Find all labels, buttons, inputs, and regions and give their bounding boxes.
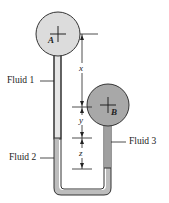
right-leg-fluid3 [105, 124, 111, 168]
vessel-a-label: A [48, 35, 54, 45]
dim-z-label: z [79, 148, 83, 158]
arrow-z-top [80, 139, 84, 144]
dim-y-label: y [79, 115, 83, 125]
arrow-y-top [80, 108, 84, 113]
arrow-z-bottom [80, 163, 84, 168]
fluid1-label: Fluid 1 [7, 75, 34, 85]
fluid2-label: Fluid 2 [9, 152, 36, 162]
vessel-b-label: B [111, 107, 117, 117]
arrow-y-bottom [80, 132, 84, 137]
fluid3-label: Fluid 3 [129, 136, 156, 146]
arrow-x-bottom [80, 101, 84, 106]
arrow-x-top [80, 35, 84, 40]
left-leg-fluid1 [54, 52, 61, 139]
manometer-diagram [0, 0, 169, 203]
dim-x-label: x [79, 63, 83, 73]
